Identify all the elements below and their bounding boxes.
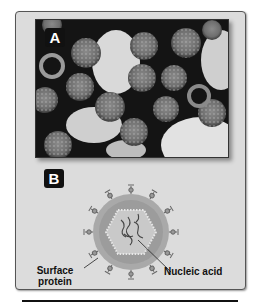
panel-b-label: B	[44, 169, 64, 188]
figure-panel: A B	[15, 11, 246, 290]
panel-a-label: A	[45, 28, 65, 47]
surface-protein-line1: Surface	[30, 265, 80, 276]
surface-protein-line2: protein	[30, 276, 80, 287]
nucleic-acid-label: Nucleic acid	[164, 266, 222, 277]
surface-protein-label: Surface protein	[30, 265, 80, 287]
divider-line	[22, 300, 238, 302]
micrograph-photo: A	[35, 19, 229, 158]
